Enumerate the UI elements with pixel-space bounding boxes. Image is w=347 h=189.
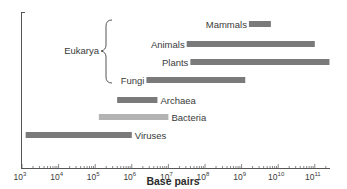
bar-archaea [117, 97, 157, 103]
x-tick-label: 105 [87, 171, 100, 182]
bar-label-plants: Plants [162, 57, 189, 68]
bars: MammalsAnimalsPlantsFungiArchaeaBacteria… [26, 19, 330, 141]
x-tick-label: 104 [50, 171, 63, 182]
bar-plants [190, 59, 329, 65]
bar-label-archaea: Archaea [160, 95, 196, 106]
eukarya-label: Eukarya [64, 45, 100, 56]
bar-label-mammals: Mammals [206, 19, 247, 30]
bar-viruses [26, 132, 132, 138]
x-tick-label: 1011 [305, 171, 321, 182]
x-tick-label: 106 [123, 171, 136, 182]
bar-fungi [146, 77, 245, 83]
bar-mammals [249, 21, 271, 27]
bar-label-animals: Animals [151, 39, 185, 50]
genome-size-chart: 10310410510610710810910101011 MammalsAni… [0, 0, 347, 189]
x-tick-label: 103 [14, 171, 27, 182]
bar-label-bacteria: Bacteria [171, 112, 207, 123]
x-tick-label: 1010 [268, 171, 285, 182]
bar-bacteria [99, 114, 169, 120]
bar-label-viruses: Viruses [135, 130, 167, 141]
x-tick-label: 109 [233, 171, 246, 182]
x-axis-minor-ticks [22, 164, 326, 168]
bar-label-fungi: Fungi [121, 75, 145, 86]
bar-animals [187, 41, 315, 47]
eukarya-brace-icon [101, 20, 112, 83]
x-axis-title: Base pairs [146, 175, 199, 187]
